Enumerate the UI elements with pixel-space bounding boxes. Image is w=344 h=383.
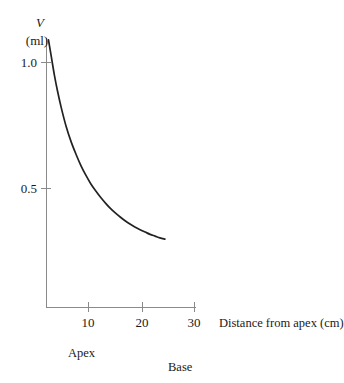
y-tick-label-0.5: 0.5 bbox=[21, 181, 37, 196]
x-axis-title: Distance from apex (cm) bbox=[219, 316, 344, 330]
x-tick-label-20: 20 bbox=[136, 315, 149, 330]
volume-distance-line-chart: V (ml) 1.0 0.5 10 20 30 Distance from ap… bbox=[0, 0, 344, 383]
x-tick-label-30: 30 bbox=[188, 315, 201, 330]
x-tick-label-10: 10 bbox=[82, 315, 95, 330]
annotation-apex: Apex bbox=[68, 346, 96, 360]
chart-figure: V (ml) 1.0 0.5 10 20 30 Distance from ap… bbox=[0, 0, 344, 383]
y-axis-units-label: (ml) bbox=[26, 33, 48, 48]
y-tick-label-1.0: 1.0 bbox=[21, 55, 37, 70]
annotation-base: Base bbox=[168, 360, 193, 374]
